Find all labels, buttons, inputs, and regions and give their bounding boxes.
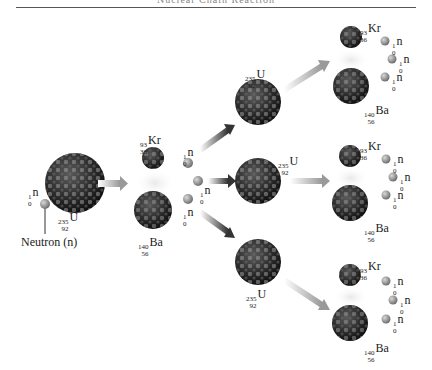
arrow-to-fission-top [284, 60, 330, 90]
label-neutron-middle-3: 10n [393, 189, 404, 211]
label-uranium-initial: 23592U [58, 211, 78, 233]
label-neutron-3: 10n [183, 206, 194, 228]
label-barium-1: 14056Ba [138, 236, 163, 258]
label-barium-top: 14056Ba [364, 104, 389, 126]
uranium-nucleus-middle [235, 158, 281, 204]
label-krypton-1: 9336Kr [140, 134, 161, 156]
barium-nucleus [134, 191, 172, 229]
label-uranium-middle: 23592U [278, 155, 298, 177]
arrow-mid-to-uranium [208, 174, 236, 188]
arrow-up-to-uranium [200, 124, 235, 150]
arrow-down-to-uranium [200, 212, 235, 238]
uranium-nucleus-bottom [235, 239, 281, 285]
chain-reaction-diagram [0, 0, 432, 370]
label-barium-bottom: 14056Ba [364, 342, 389, 364]
label-uranium-top: 23592U [245, 68, 265, 90]
label-neutron-top-3: 10n [392, 71, 403, 93]
neutron-caption: Neutron (n) [21, 236, 77, 248]
incoming-neutron [40, 199, 50, 234]
label-neutron-bottom-3: 10n [393, 313, 404, 335]
label-uranium-bottom: 23592U [246, 288, 266, 310]
label-neutron-1: 10n [183, 146, 194, 168]
label-neutron-initial: 10n [28, 186, 39, 208]
released-neutron-3 [183, 194, 193, 204]
uranium-nucleus-initial [45, 153, 105, 213]
label-neutron-2: 10n [200, 184, 211, 206]
label-krypton-middle: 9336Kr [360, 140, 381, 162]
label-barium-middle: 14056Ba [364, 222, 389, 244]
arrow-to-fission-bottom [284, 280, 330, 310]
label-krypton-bottom: 9336Kr [360, 260, 381, 282]
label-krypton-top: 9336Kr [360, 22, 381, 44]
